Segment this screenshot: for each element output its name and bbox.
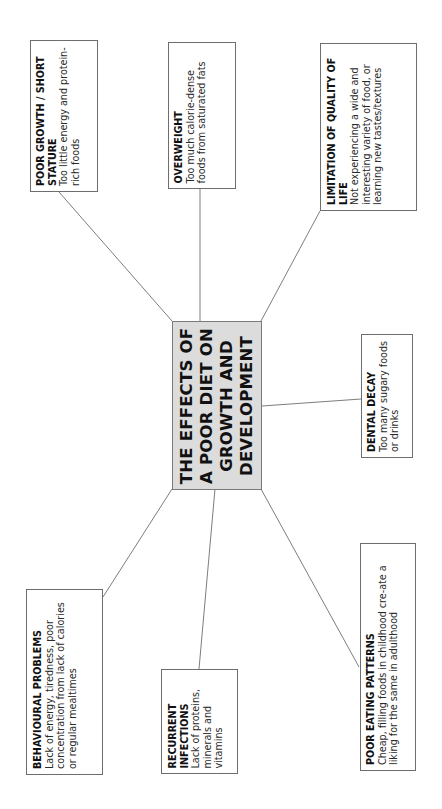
node-recurrent: RECURRENT INFECTIONS Lack of proteins, m…	[161, 669, 238, 774]
node-poor-eating: POOR EATING PATTERNS Cheap, filling food…	[360, 543, 416, 771]
node-text: Cheap, filling foods in childhood cre-at…	[377, 565, 400, 765]
connector-behavioural	[103, 489, 172, 597]
node-title: BEHAVIOURAL PROBLEMS	[31, 595, 43, 769]
connector-poor-eating	[261, 489, 359, 667]
connector-poor-growth	[59, 192, 172, 321]
node-text: Too much calorie-dense foods from satura…	[185, 61, 208, 183]
node-poor-growth: POOR GROWTH / SHORT STATURE Too little e…	[30, 40, 98, 192]
node-text: Too many sugary foods or drinks	[378, 341, 401, 452]
node-text: Lack of energy, tiredness, poor concentr…	[43, 602, 77, 769]
node-title: DENTAL DECAY	[366, 340, 378, 452]
node-title: POOR EATING PATTERNS	[365, 549, 377, 765]
node-title: OVERWEIGHT	[173, 48, 185, 183]
node-overweight: OVERWEIGHT Too much calorie-dense foods …	[168, 42, 236, 189]
node-behavioural: BEHAVIOURAL PROBLEMS Lack of energy, tir…	[26, 589, 103, 775]
node-dental-decay: DENTAL DECAY Too many sugary foods or dr…	[361, 334, 413, 458]
central-topic-box: THE EFFECTS OF A POOR DIET ON GROWTH AND…	[172, 321, 262, 490]
central-topic-title: THE EFFECTS OF A POOR DIET ON GROWTH AND…	[172, 321, 262, 490]
connector-limitation	[261, 211, 320, 321]
node-text: Too little energy and protein-rich foods	[58, 47, 81, 186]
connector-dental-decay	[262, 399, 361, 406]
node-text: Not experiencing a wide and interesting …	[348, 64, 382, 205]
node-title: POOR GROWTH / SHORT STATURE	[35, 46, 58, 186]
node-text: Lack of proteins, minerals and vitamins	[189, 688, 223, 768]
node-limitation: LIMITATION OF QUALITY OF LIFE Not experi…	[320, 43, 417, 211]
node-title: LIMITATION OF QUALITY OF LIFE	[325, 49, 348, 205]
connector-recurrent	[199, 489, 215, 669]
node-title: RECURRENT INFECTIONS	[166, 675, 189, 768]
